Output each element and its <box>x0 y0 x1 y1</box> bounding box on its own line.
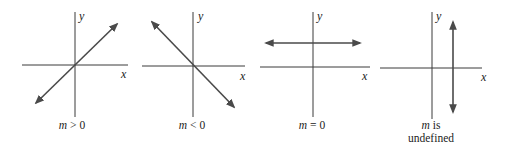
slope-diagram: y x m > 0 y x m < 0 y x m = 0 y x m is u… <box>0 0 510 149</box>
panel-negative-slope: y x m < 0 <box>142 9 246 131</box>
x-axis-label: x <box>480 70 487 84</box>
y-axis-label: y <box>435 9 442 23</box>
panel-undefined-slope: y x m is undefined <box>380 9 487 144</box>
slope-caption: m = 0 <box>299 119 326 131</box>
y-axis-label: y <box>316 9 323 23</box>
rising-line-arrow <box>36 24 117 103</box>
slope-caption: m < 0 <box>179 119 206 131</box>
y-axis-label: y <box>197 9 204 23</box>
y-axis-label: y <box>78 9 85 23</box>
slope-caption: m > 0 <box>59 119 86 131</box>
slope-caption-line2: undefined <box>408 132 454 144</box>
panel-positive-slope: y x m > 0 <box>22 9 128 131</box>
x-axis-label: x <box>361 69 368 83</box>
slope-caption: m is <box>422 119 441 131</box>
x-axis-label: x <box>120 67 127 81</box>
x-axis-label: x <box>239 69 246 83</box>
panel-zero-slope: y x m = 0 <box>260 9 370 131</box>
